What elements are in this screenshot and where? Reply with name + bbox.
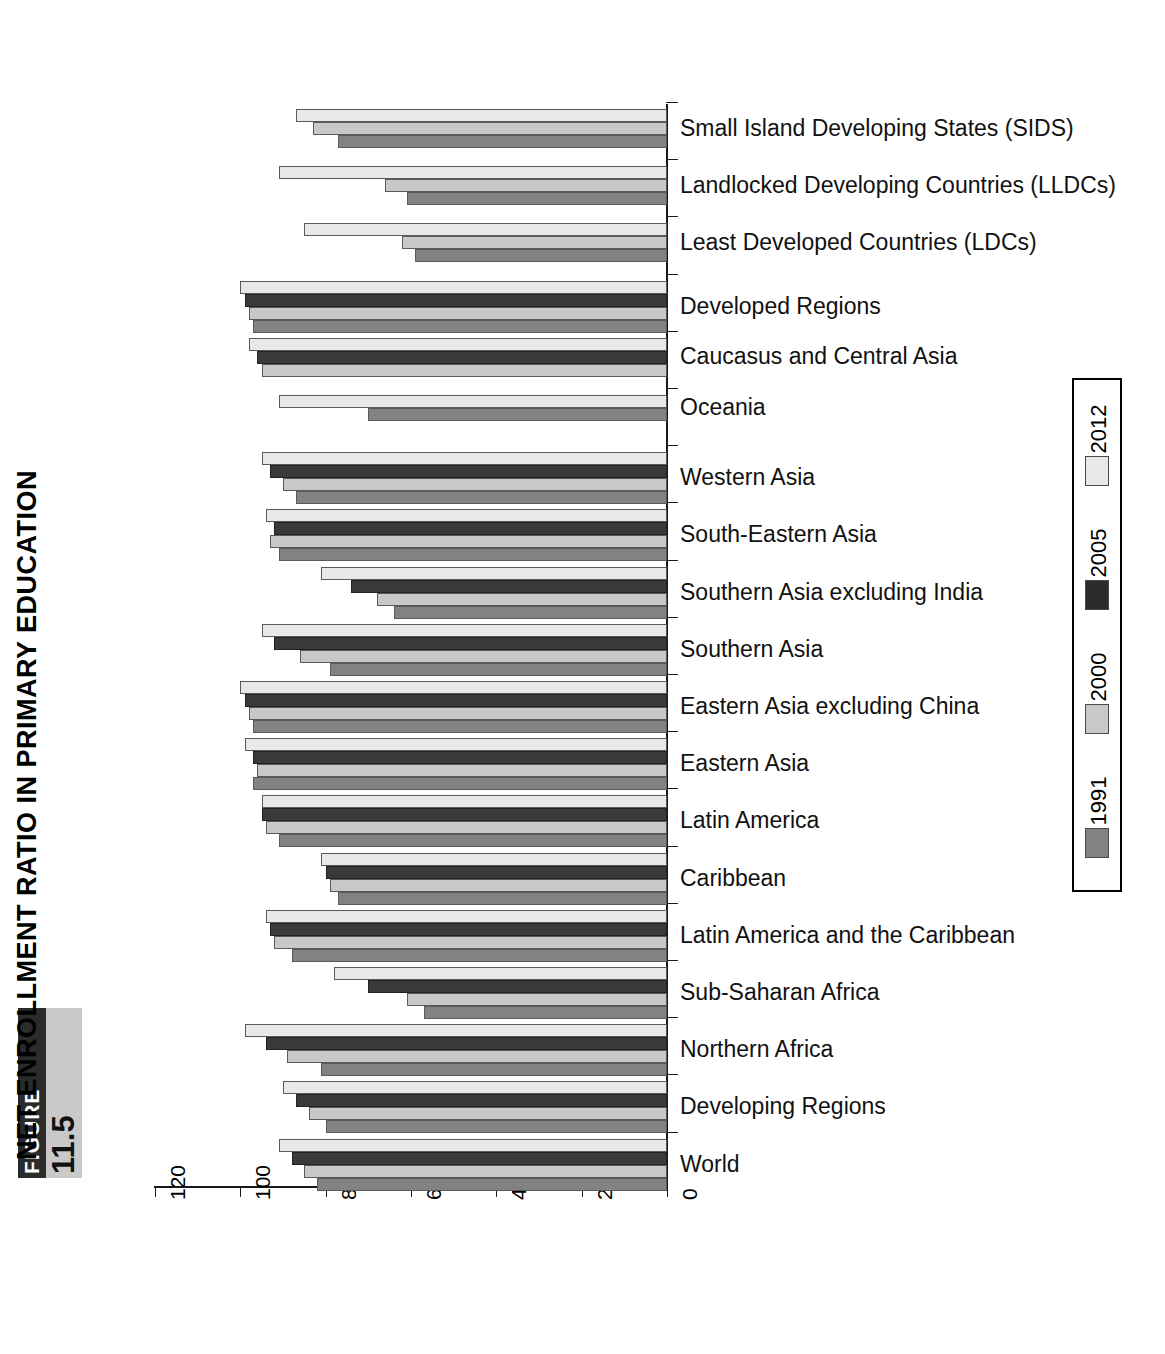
bar-2012[interactable] bbox=[283, 1081, 667, 1094]
bar-2000[interactable] bbox=[266, 821, 667, 834]
bar-1991[interactable] bbox=[253, 777, 667, 790]
bar-2000[interactable] bbox=[270, 535, 667, 548]
bar-2005[interactable] bbox=[296, 1094, 667, 1107]
bar-1991[interactable] bbox=[296, 491, 667, 504]
legend-item-2005[interactable]: 2005 bbox=[1074, 518, 1120, 610]
category-label: Southern Asia excluding India bbox=[680, 579, 983, 606]
bar-1991[interactable] bbox=[338, 135, 667, 148]
bar-2005[interactable] bbox=[274, 637, 667, 650]
bar-2012[interactable] bbox=[262, 452, 667, 465]
bar-1991[interactable] bbox=[292, 949, 667, 962]
bar-1991[interactable] bbox=[253, 320, 667, 333]
bar-2005[interactable] bbox=[270, 465, 667, 478]
category-axis-tick bbox=[666, 102, 678, 103]
bar-2000[interactable] bbox=[300, 650, 667, 663]
category-axis-tick bbox=[666, 846, 678, 847]
bar-1991[interactable] bbox=[330, 663, 667, 676]
bar-2000[interactable] bbox=[385, 179, 667, 192]
bar-2005[interactable] bbox=[245, 294, 667, 307]
bar-2012[interactable] bbox=[266, 509, 667, 522]
bar-2005[interactable] bbox=[274, 522, 667, 535]
bar-2012[interactable] bbox=[321, 567, 667, 580]
x-axis-tick-label: 120 bbox=[166, 1120, 190, 1200]
bar-1991[interactable] bbox=[338, 892, 667, 905]
category-axis-tick bbox=[666, 159, 678, 160]
chart-plot-area: 120100806040200 Small Island Developing … bbox=[0, 0, 1165, 1354]
bar-2005[interactable] bbox=[351, 580, 667, 593]
bar-1991[interactable] bbox=[394, 606, 667, 619]
bar-1991[interactable] bbox=[326, 1120, 667, 1133]
bar-2005[interactable] bbox=[270, 923, 667, 936]
bar-2000[interactable] bbox=[249, 707, 667, 720]
bar-2000[interactable] bbox=[330, 879, 667, 892]
bar-2012[interactable] bbox=[266, 910, 667, 923]
bar-2005[interactable] bbox=[368, 980, 667, 993]
bar-2000[interactable] bbox=[407, 993, 667, 1006]
category-label: Latin America and the Caribbean bbox=[680, 922, 1015, 949]
bar-2012[interactable] bbox=[240, 281, 667, 294]
bar-2000[interactable] bbox=[283, 478, 667, 491]
bar-2005[interactable] bbox=[262, 808, 667, 821]
bar-2000[interactable] bbox=[274, 936, 667, 949]
bar-1991[interactable] bbox=[415, 249, 667, 262]
bar-2012[interactable] bbox=[279, 395, 667, 408]
category-axis-tick bbox=[666, 216, 678, 217]
category-axis-tick bbox=[666, 674, 678, 675]
category-label: Northern Africa bbox=[680, 1036, 833, 1063]
bar-2005[interactable] bbox=[253, 751, 667, 764]
bar-1991[interactable] bbox=[317, 1178, 667, 1191]
category-label: South-Eastern Asia bbox=[680, 521, 877, 548]
bar-2000[interactable] bbox=[309, 1107, 667, 1120]
bar-1991[interactable] bbox=[424, 1006, 667, 1019]
legend-item-1991[interactable]: 1991 bbox=[1074, 766, 1120, 858]
bar-2000[interactable] bbox=[304, 1165, 667, 1178]
bar-2012[interactable] bbox=[279, 1139, 667, 1152]
x-axis-tick bbox=[240, 1186, 241, 1197]
bar-2012[interactable] bbox=[334, 967, 667, 980]
category-label: Caucasus and Central Asia bbox=[680, 343, 957, 370]
category-label: Small Island Developing States (SIDS) bbox=[680, 115, 1074, 142]
category-label: Developing Regions bbox=[680, 1093, 886, 1120]
bar-2012[interactable] bbox=[321, 853, 667, 866]
bar-2000[interactable] bbox=[287, 1050, 667, 1063]
bar-2000[interactable] bbox=[257, 764, 667, 777]
bar-2012[interactable] bbox=[296, 109, 667, 122]
bar-2005[interactable] bbox=[326, 866, 667, 879]
bar-2012[interactable] bbox=[262, 795, 667, 808]
bar-1991[interactable] bbox=[253, 720, 667, 733]
bar-2005[interactable] bbox=[292, 1152, 667, 1165]
legend-label: 2012 bbox=[1086, 405, 1108, 454]
legend-swatch-2005 bbox=[1085, 580, 1109, 610]
bar-2000[interactable] bbox=[377, 593, 667, 606]
bar-2012[interactable] bbox=[304, 223, 667, 236]
bar-2012[interactable] bbox=[249, 338, 667, 351]
bar-2005[interactable] bbox=[257, 351, 667, 364]
bar-2000[interactable] bbox=[313, 122, 667, 135]
bar-1991[interactable] bbox=[321, 1063, 667, 1076]
bar-2000[interactable] bbox=[262, 364, 667, 377]
category-label: World bbox=[680, 1151, 740, 1178]
legend-label: 2005 bbox=[1086, 529, 1108, 578]
bar-2012[interactable] bbox=[240, 681, 667, 694]
bar-2000[interactable] bbox=[402, 236, 667, 249]
x-axis-tick bbox=[155, 1186, 156, 1197]
bar-2012[interactable] bbox=[279, 166, 667, 179]
bar-1991[interactable] bbox=[279, 834, 667, 847]
bar-2012[interactable] bbox=[245, 738, 667, 751]
category-axis-tick bbox=[666, 331, 678, 332]
legend-item-2012[interactable]: 2012 bbox=[1074, 394, 1120, 486]
bar-2012[interactable] bbox=[245, 1024, 667, 1037]
legend-label-wrapper: 2005 bbox=[1073, 518, 1122, 580]
bar-2005[interactable] bbox=[266, 1037, 667, 1050]
legend-swatch-2000 bbox=[1085, 704, 1109, 734]
bar-2000[interactable] bbox=[249, 307, 667, 320]
legend-item-2000[interactable]: 2000 bbox=[1074, 642, 1120, 734]
chart-legend: 2012200520001991 bbox=[1072, 378, 1122, 892]
bar-2005[interactable] bbox=[245, 694, 667, 707]
bar-2012[interactable] bbox=[262, 624, 667, 637]
bar-1991[interactable] bbox=[368, 408, 667, 421]
legend-label-wrapper: 1991 bbox=[1073, 766, 1122, 828]
bar-1991[interactable] bbox=[279, 548, 667, 561]
category-label: Eastern Asia bbox=[680, 750, 809, 777]
bar-1991[interactable] bbox=[407, 192, 667, 205]
